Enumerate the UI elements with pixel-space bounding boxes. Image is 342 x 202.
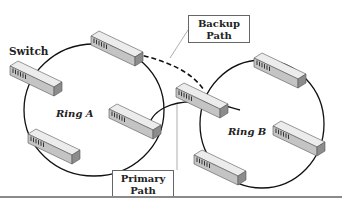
switch-icon [194, 150, 246, 185]
switch-icon [10, 61, 62, 96]
backup-callout-leader [170, 30, 188, 58]
ring-a-circle [24, 44, 164, 176]
switch-icon [254, 53, 306, 88]
ring-b-label: Ring B [228, 126, 266, 137]
backup-callout-line1: Backup [189, 18, 249, 30]
primary-callout-line1: Primary [113, 173, 173, 185]
backup-path-callout: Backup Path [188, 15, 250, 43]
switch-icon [273, 121, 325, 156]
switch-icon [28, 129, 80, 164]
bottom-divider [0, 196, 342, 198]
switch-icon [91, 31, 143, 66]
primary-path-callout: Primary Path [112, 170, 174, 198]
switch-icon [109, 104, 161, 139]
switch-label: Switch [9, 45, 49, 57]
backup-callout-line2: Path [189, 30, 249, 42]
ring-a-label: Ring A [56, 108, 94, 119]
